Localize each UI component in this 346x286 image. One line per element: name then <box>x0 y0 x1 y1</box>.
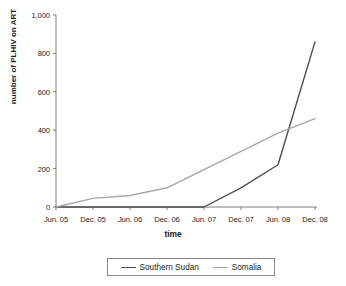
x-tick-label: Dec. 08 <box>302 215 327 224</box>
plot-area <box>0 0 346 286</box>
x-tick-label: Jun. 07 <box>192 215 216 224</box>
x-tick-label: Jun. 06 <box>118 215 142 224</box>
legend-swatch-southern-sudan <box>121 267 136 268</box>
y-tick-label: 400 <box>10 126 50 135</box>
series-line-somalia <box>56 119 315 207</box>
legend-swatch-somalia <box>213 267 228 268</box>
x-axis-title: time <box>0 229 346 239</box>
y-tick-label: 0 <box>10 203 50 212</box>
series-line-southern-sudan <box>56 42 315 207</box>
x-tick-label: Jun. 05 <box>44 215 68 224</box>
chart-legend: Southern Sudan Somalia <box>107 258 275 276</box>
x-tick-label: Dec. 07 <box>228 215 253 224</box>
x-tick-label: Jun. 08 <box>266 215 290 224</box>
x-tick-label: Dec. 06 <box>154 215 179 224</box>
x-tick-label: Dec. 05 <box>80 215 105 224</box>
legend-label-southern-sudan: Southern Sudan <box>140 263 199 272</box>
legend-item-southern-sudan: Southern Sudan <box>121 263 199 272</box>
legend-label-somalia: Somalia <box>232 263 262 272</box>
line-chart: 02004006008001,000 Jun. 05Dec. 05Jun. 06… <box>0 0 346 286</box>
legend-item-somalia: Somalia <box>213 263 262 272</box>
y-axis-title: number of PLHIV on ART <box>9 0 18 122</box>
series-lines <box>56 42 315 207</box>
y-tick-label: 200 <box>10 164 50 173</box>
